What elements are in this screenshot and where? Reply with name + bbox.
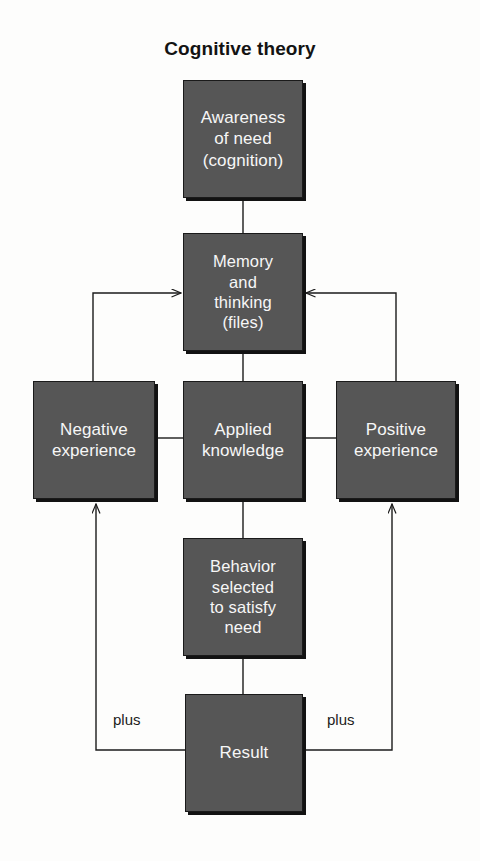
node-behavior-selected[interactable]: Behaviorselectedto satisfyneed xyxy=(183,538,303,656)
node-memory-and-thinking-label: Memoryandthinking(files) xyxy=(207,251,279,333)
node-positive-experience[interactable]: Positiveexperience xyxy=(336,381,456,499)
node-result-label: Result xyxy=(214,742,275,763)
edge-positive-to-memory xyxy=(306,293,396,381)
node-result[interactable]: Result xyxy=(185,694,303,812)
node-negative-experience[interactable]: Negativeexperience xyxy=(33,381,155,499)
node-applied-knowledge-label: Appliedknowledge xyxy=(196,419,290,461)
node-applied-knowledge[interactable]: Appliedknowledge xyxy=(183,381,303,499)
edge-label-plus-left: plus xyxy=(113,711,141,728)
node-negative-experience-label: Negativeexperience xyxy=(46,419,142,461)
node-positive-experience-label: Positiveexperience xyxy=(348,419,444,461)
node-awareness-of-need[interactable]: Awarenessof need(cognition) xyxy=(183,80,303,198)
edge-negative-to-memory xyxy=(93,293,181,381)
node-memory-and-thinking[interactable]: Memoryandthinking(files) xyxy=(183,233,303,351)
edge-label-plus-right: plus xyxy=(327,711,355,728)
node-behavior-selected-label: Behaviorselectedto satisfyneed xyxy=(204,556,282,638)
cognitive-theory-diagram: Cognitive theory xyxy=(0,0,480,861)
node-awareness-of-need-label: Awarenessof need(cognition) xyxy=(195,107,292,170)
